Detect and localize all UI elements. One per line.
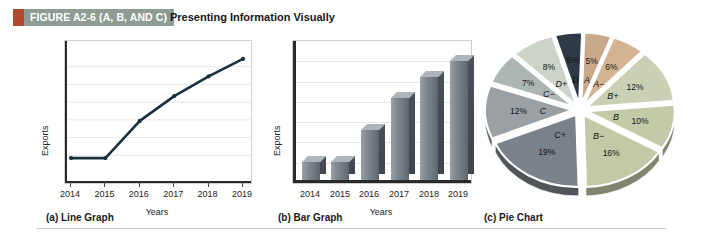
line-graph-tick: [139, 182, 140, 187]
pie-slice-category-label: B−: [593, 131, 604, 141]
bar-graph-bar: [302, 156, 320, 180]
panel-pie-chart: 5%A6%A−12%B+10%B16%B−19%C+12%C7%C−8%D+5%…: [472, 26, 698, 208]
line-graph-tick-label: 2019: [225, 189, 259, 199]
bar-front-face: [420, 77, 438, 180]
bar-graph-bar: [391, 92, 409, 180]
figure-number-label: FIGURE A2-6 (A, B, AND C): [30, 9, 167, 26]
pie-slice-category-label: D: [572, 75, 579, 85]
bar-graph-y-axis: [293, 41, 296, 183]
panel-bar-graph: Exports 201420152016201720182019 Years: [268, 38, 473, 218]
pie-slice-category-label: A−: [592, 79, 604, 89]
figure-root: FIGURE A2-6 (A, B, AND C) Presenting Inf…: [0, 0, 702, 240]
bar-graph-tick-label: 2014: [293, 189, 327, 199]
pie-slice-value-label: 5%: [586, 56, 599, 66]
pie-slice-category-label: C−: [543, 89, 555, 99]
figure-number-banner: FIGURE A2-6 (A, B, AND C): [24, 9, 174, 26]
pie-slice-value-label: 19%: [538, 147, 555, 157]
figure-mark-icon: [13, 9, 24, 26]
line-graph-tick: [208, 182, 209, 187]
pie-slice-value-label: 10%: [632, 116, 649, 126]
pie-slice-value-label: 8%: [543, 62, 556, 72]
bar-side-face: [409, 92, 415, 174]
pie-slice-category-label: B: [613, 112, 619, 122]
line-graph-tick: [104, 182, 105, 187]
pie-slice-value-label: 12%: [626, 82, 643, 92]
caption-line-graph: (a) Line Graph: [46, 212, 114, 223]
caption-bar-graph: (b) Bar Graph: [278, 212, 342, 223]
bar-side-face: [379, 124, 385, 174]
line-graph-tick: [242, 182, 243, 187]
bar-graph-bar: [361, 124, 379, 180]
pie-slice-category-label: D+: [555, 79, 567, 89]
caption-pie-chart: (c) Pie Chart: [484, 212, 543, 223]
figure-header: FIGURE A2-6 (A, B, AND C): [13, 9, 174, 26]
bar-graph-bar: [331, 156, 349, 180]
line-graph-svg: [65, 41, 251, 183]
bar-front-face: [361, 130, 379, 180]
line-graph-y-axis-label: Exports: [40, 125, 50, 156]
pie-slice-category-label: A: [583, 75, 590, 85]
line-graph-tick: [70, 182, 71, 187]
bar-front-face: [450, 61, 468, 180]
panel-line-graph: Exports 201420152016201720182019 Years: [36, 38, 256, 218]
pie-slice-value-label: 16%: [603, 148, 620, 158]
line-graph-tick-label: 2016: [122, 189, 156, 199]
bar-graph-tick-label: 2017: [382, 189, 416, 199]
figure-title: Presenting Information Visually: [170, 9, 335, 26]
pie-slice-value-label: 12%: [510, 106, 527, 116]
line-graph-tick-label: 2014: [53, 189, 87, 199]
line-graph-plot-area: [64, 40, 252, 184]
pie-slice-value-label: 6%: [605, 62, 618, 72]
bar-front-face: [391, 98, 409, 180]
bar-side-face: [438, 71, 444, 174]
pie-slice-category-label: C: [540, 106, 547, 116]
line-graph-tick-label: 2018: [191, 189, 225, 199]
bar-front-face: [331, 162, 349, 180]
line-graph-tick-label: 2017: [156, 189, 190, 199]
bar-graph-y-axis-label: Exports: [272, 125, 282, 156]
pie-slice-value-label: 5%: [566, 55, 579, 65]
footer-divider: [36, 228, 666, 229]
line-graph-tick: [173, 182, 174, 187]
bar-graph-x-axis: [293, 180, 471, 183]
bar-graph-tick-label: 2019: [441, 189, 475, 199]
line-graph-tick-label: 2015: [87, 189, 121, 199]
bar-front-face: [302, 162, 320, 180]
bar-graph-bar: [420, 71, 438, 180]
pie-slice-category-label: B+: [607, 91, 618, 101]
pie-slice-value-label: 7%: [522, 78, 535, 88]
bar-graph-gridline: [293, 61, 471, 62]
bar-graph-tick-label: 2016: [352, 189, 386, 199]
bar-graph-plot-area: [292, 40, 472, 184]
pie-slice-category-label: C+: [554, 130, 566, 140]
bar-graph-bar: [450, 55, 468, 180]
pie-chart-svg: 5%A6%A−12%B+10%B16%B−19%C+12%C7%C−8%D+5%…: [472, 26, 698, 208]
